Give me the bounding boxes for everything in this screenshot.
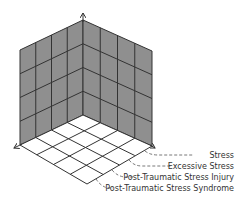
label-stress: Stress (209, 151, 234, 160)
label-excessive-stress: Excessive Stress (168, 162, 234, 171)
label-post-traumatic-stress-syndrome: Post-Traumatic Stress Syndrome (105, 184, 234, 193)
isometric-grid-diagram: Stress Excessive Stress Post-Traumatic S… (0, 0, 242, 205)
label-post-traumatic-stress-injury: Post-Traumatic Stress Injury (123, 173, 234, 182)
